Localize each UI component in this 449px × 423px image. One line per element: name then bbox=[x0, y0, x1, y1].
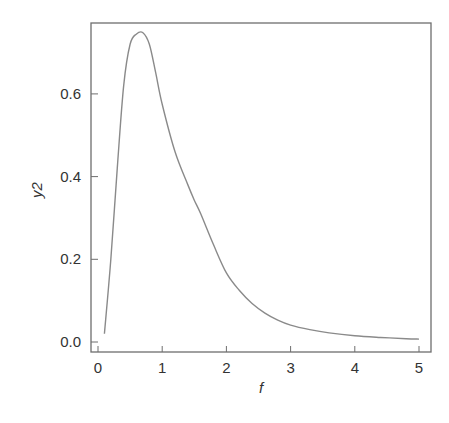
x-axis-label: f bbox=[259, 379, 265, 396]
y-tick-label: 0.0 bbox=[60, 333, 81, 350]
y-tick-label: 0.2 bbox=[60, 250, 81, 267]
x-tick-label: 5 bbox=[415, 359, 423, 376]
chart: 012345 0.00.20.40.6 f y2 bbox=[0, 0, 449, 423]
x-tick-label: 1 bbox=[158, 359, 166, 376]
x-tick-label: 4 bbox=[351, 359, 359, 376]
x-tick-label: 0 bbox=[94, 359, 102, 376]
y-tick-label: 0.6 bbox=[60, 85, 81, 102]
x-tick-label: 3 bbox=[286, 359, 294, 376]
y-axis-label: y2 bbox=[28, 181, 45, 199]
x-tick-label: 2 bbox=[222, 359, 230, 376]
plot-frame bbox=[91, 23, 431, 352]
data-line-y2 bbox=[104, 32, 419, 339]
y-axis-ticks: 0.00.20.40.6 bbox=[60, 85, 98, 350]
x-axis-ticks: 012345 bbox=[94, 346, 423, 376]
y-tick-label: 0.4 bbox=[60, 168, 81, 185]
